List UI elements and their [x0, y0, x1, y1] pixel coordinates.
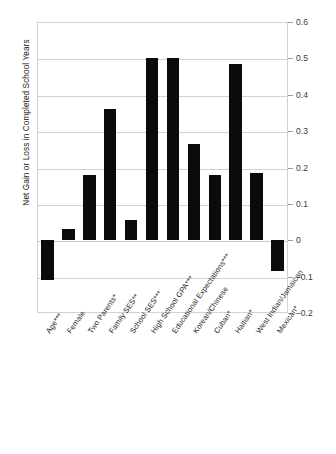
x-axis-category-label: Age***	[44, 311, 64, 335]
x-axis-category-label: Female	[65, 309, 87, 335]
x-axis-category-label: Haitian*	[233, 308, 256, 335]
bar-chart: Net Gain or Loss in Completed School Yea…	[0, 0, 336, 454]
x-axis-category-labels: Age***FemaleTwo Parents*Family SES**Scho…	[0, 0, 336, 454]
x-axis-category-label: Cuban*	[212, 309, 234, 335]
